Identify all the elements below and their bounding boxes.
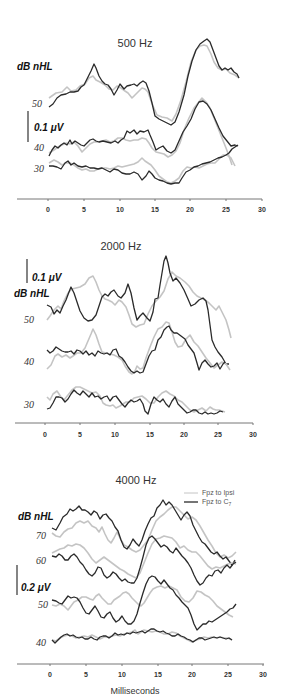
trace-40db-ipsi: [47, 322, 230, 374]
tick-label: 20: [180, 431, 188, 438]
tick-label: 25: [214, 431, 222, 438]
level-label-50: 50: [32, 98, 42, 109]
unit-label: dB nHL: [14, 288, 50, 299]
panel-title: 2000 Hz: [101, 240, 142, 252]
tick-label: 25: [224, 671, 232, 678]
tick-label: 10: [111, 431, 119, 438]
tick-label: 15: [151, 206, 159, 213]
tick-label: 0: [48, 671, 52, 678]
tick-label: 10: [118, 671, 126, 678]
tick-label: 15: [154, 671, 162, 678]
level-label-60: 60: [36, 555, 46, 566]
tick-label: 30: [259, 671, 267, 678]
panel-500hz: 500 Hz dB nHL 50 0.1 μV 40 30 0 5 10 15 …: [17, 37, 266, 213]
panel-4000hz: 4000 Hz Fpz to Ipsi Fpz to C7 dB nHL 70 …: [17, 474, 267, 696]
tick-label: 10: [116, 206, 124, 213]
tick-label: 30: [249, 431, 257, 438]
scale-label: 0.2 μV: [21, 582, 52, 593]
level-label-40: 40: [24, 356, 34, 367]
panel-title: 500 Hz: [118, 37, 153, 49]
tick-label: 5: [78, 431, 82, 438]
level-label-50: 50: [38, 599, 48, 610]
tick-label: 20: [188, 671, 196, 678]
panel-2000hz: 2000 Hz 0.1 μV dB nHL 50 40 30 0 5 10 15…: [14, 240, 257, 438]
trace-60db-c7: [52, 536, 236, 585]
tick-label: 20: [186, 206, 194, 213]
tick-label: 25: [222, 206, 230, 213]
legend: Fpz to Ipsi Fpz to C7: [184, 489, 235, 507]
tick-label: 0: [46, 206, 50, 213]
tick-label: 30: [258, 206, 266, 213]
level-label-70: 70: [36, 530, 46, 541]
tick-label: 15: [146, 431, 154, 438]
trace-40db-c7: [47, 326, 225, 373]
legend-ipsi-label: Fpz to Ipsi: [202, 489, 235, 497]
level-label-30: 30: [33, 163, 44, 174]
trace-30db-ipsi: [49, 155, 235, 183]
level-label-30: 30: [23, 399, 34, 410]
level-label-40: 40: [34, 142, 44, 153]
trace-30db-c7: [49, 145, 238, 184]
tick-label: 5: [82, 206, 86, 213]
level-label-50: 50: [24, 314, 34, 325]
scale-label: 0.1 μV: [32, 272, 63, 283]
trace-50db-ipsi: [47, 272, 231, 338]
panel-title: 4000 Hz: [116, 474, 157, 486]
tick-label: 5: [84, 671, 88, 678]
trace-60db-ipsi: [52, 536, 236, 578]
trace-30db-c7: [47, 390, 223, 414]
unit-label: dB nHL: [18, 511, 54, 522]
unit-label: dB nHL: [17, 61, 53, 72]
abr-figure: 500 Hz dB nHL 50 0.1 μV 40 30 0 5 10 15 …: [0, 0, 283, 700]
legend-c7-label: Fpz to C7: [202, 498, 231, 507]
x-axis-label: Milliseconds: [110, 686, 160, 696]
trace-50db-c7: [47, 256, 229, 364]
level-label-40: 40: [36, 637, 46, 648]
scale-label: 0.1 μV: [34, 122, 65, 133]
trace-40db-c7: [52, 629, 232, 643]
tick-label: 0: [43, 431, 47, 438]
